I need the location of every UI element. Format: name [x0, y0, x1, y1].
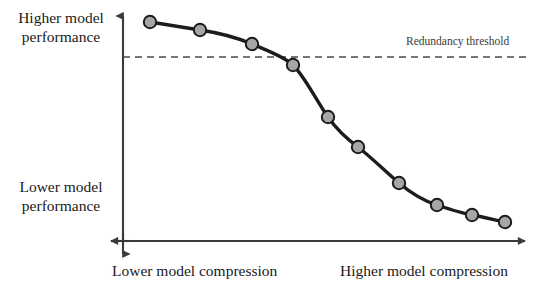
x-axis-right-label: Higher model compression [340, 262, 508, 281]
data-point [287, 59, 299, 71]
figure-container: Higher model performance Lower model per… [0, 0, 540, 294]
data-point [499, 216, 511, 228]
data-point [352, 141, 364, 153]
x-axis-left-label: Lower model compression [112, 262, 277, 281]
data-point [322, 111, 334, 123]
data-point [144, 16, 156, 28]
data-point [466, 209, 478, 221]
y-axis-bottom-label-line2: performance [6, 197, 116, 216]
data-point [393, 177, 405, 189]
data-point [194, 24, 206, 36]
redundancy-threshold-label: Redundancy threshold [406, 34, 509, 48]
y-axis-top-label: Higher model performance [6, 9, 116, 47]
y-axis-bottom-label: Lower model performance [6, 178, 116, 216]
y-axis-top-label-line2: performance [6, 28, 116, 47]
y-axis-top-label-line1: Higher model [6, 9, 116, 28]
data-point [246, 38, 258, 50]
data-point [431, 199, 443, 211]
y-axis-bottom-label-line1: Lower model [6, 178, 116, 197]
